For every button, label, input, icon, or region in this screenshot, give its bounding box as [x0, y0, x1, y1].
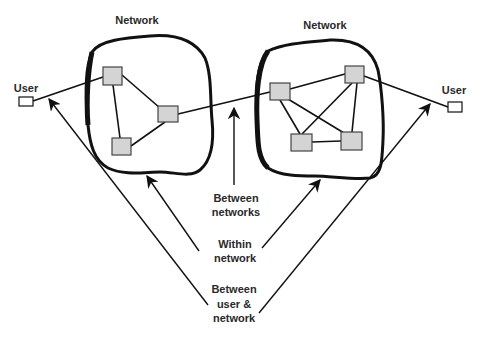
node — [103, 67, 122, 85]
arrow-within-network-right — [262, 180, 320, 248]
node — [345, 66, 364, 83]
network-label-left: Network — [115, 14, 159, 26]
network-label-right: Network — [303, 19, 347, 31]
network-boundary-right — [256, 40, 383, 179]
links-left-network — [113, 75, 165, 146]
node — [291, 134, 312, 151]
network-diagram: Network Network User User Between networ… — [0, 0, 485, 341]
user-box-right — [448, 102, 462, 112]
user-label-right: User — [442, 84, 467, 96]
svg-text:network: network — [213, 312, 256, 324]
svg-text:Within: Within — [218, 238, 252, 250]
node — [270, 83, 290, 100]
annotation-between-networks: Between networks — [212, 192, 260, 218]
network-boundary-left — [86, 36, 212, 175]
user-box-left — [19, 97, 33, 106]
link-user-right — [364, 76, 448, 107]
svg-text:Between: Between — [213, 192, 259, 204]
annotation-between-user-network: Between user & network — [211, 283, 257, 324]
svg-text:user &: user & — [217, 298, 251, 310]
arrow-user-network-left — [49, 99, 208, 305]
svg-text:networks: networks — [212, 206, 260, 218]
link-user-left — [33, 77, 103, 101]
nodes-left-network — [103, 67, 178, 155]
user-label-left: User — [14, 82, 39, 94]
svg-text:Between: Between — [211, 283, 257, 295]
node — [112, 138, 131, 155]
annotation-within-network: Within network — [214, 238, 257, 264]
svg-text:network: network — [214, 252, 257, 264]
node — [341, 132, 362, 150]
node — [158, 106, 178, 122]
arrow-within-network-left — [147, 176, 199, 251]
